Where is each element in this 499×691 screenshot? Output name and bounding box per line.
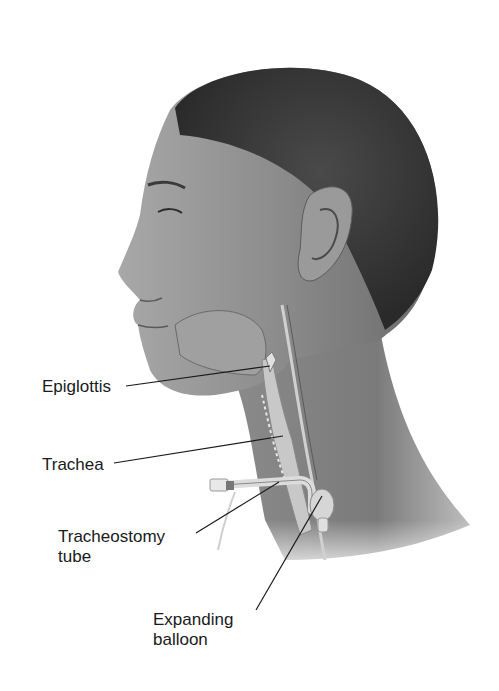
label-line: Tracheostomy [58, 527, 165, 547]
label-line: balloon [153, 630, 233, 650]
head-neck-illustration [0, 0, 499, 691]
label-tracheostomy-tube: Tracheostomy tube [58, 527, 165, 567]
balloon-shape [310, 489, 334, 521]
tracheostomy-diagram: Epiglottis Trachea Tracheostomy tube Exp… [0, 0, 499, 691]
label-line: tube [58, 547, 165, 567]
label-epiglottis: Epiglottis [42, 377, 111, 397]
label-trachea: Trachea [42, 455, 104, 475]
label-expanding-balloon: Expanding balloon [153, 610, 233, 650]
label-line: Expanding [153, 610, 233, 630]
